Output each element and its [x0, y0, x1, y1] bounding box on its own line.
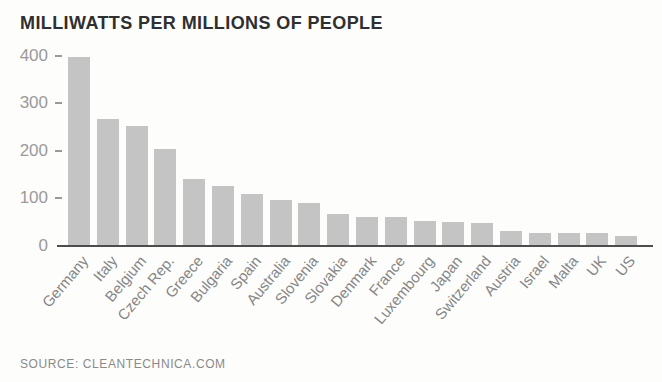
bar-israel	[529, 233, 551, 246]
bar-czech-rep	[154, 149, 176, 246]
bar-france	[385, 217, 407, 246]
bar-slovenia	[298, 203, 320, 246]
y-tick-mark-400	[55, 55, 62, 57]
y-tick-mark-200	[55, 150, 62, 152]
bar-slovakia	[327, 214, 349, 246]
y-tick-label-0: 0	[6, 236, 48, 256]
chart-figure: MILLIWATTS PER MILLIONS OF PEOPLE 010020…	[0, 0, 662, 382]
bar-denmark	[356, 217, 378, 246]
y-tick-mark-300	[55, 102, 62, 104]
y-tick-mark-100	[55, 197, 62, 199]
y-tick-label-400: 400	[6, 46, 48, 66]
bar-greece	[183, 179, 205, 246]
bar-belgium	[126, 126, 148, 246]
bar-austria	[500, 231, 522, 246]
bar-germany	[68, 57, 90, 246]
bar-japan	[442, 222, 464, 246]
bar-spain	[241, 194, 263, 246]
bar-malta	[558, 233, 580, 246]
y-tick-label-200: 200	[6, 141, 48, 161]
bar-australia	[270, 200, 292, 246]
bar-switzerland	[471, 223, 493, 246]
y-tick-label-100: 100	[6, 188, 48, 208]
x-axis-line	[57, 245, 653, 247]
bar-luxembourg	[414, 221, 436, 246]
bar-bulgaria	[212, 186, 234, 246]
bar-italy	[97, 119, 119, 246]
chart-title: MILLIWATTS PER MILLIONS OF PEOPLE	[20, 13, 383, 34]
source-note: SOURCE: CLEANTECHNICA.COM	[20, 357, 226, 371]
y-tick-label-300: 300	[6, 93, 48, 113]
